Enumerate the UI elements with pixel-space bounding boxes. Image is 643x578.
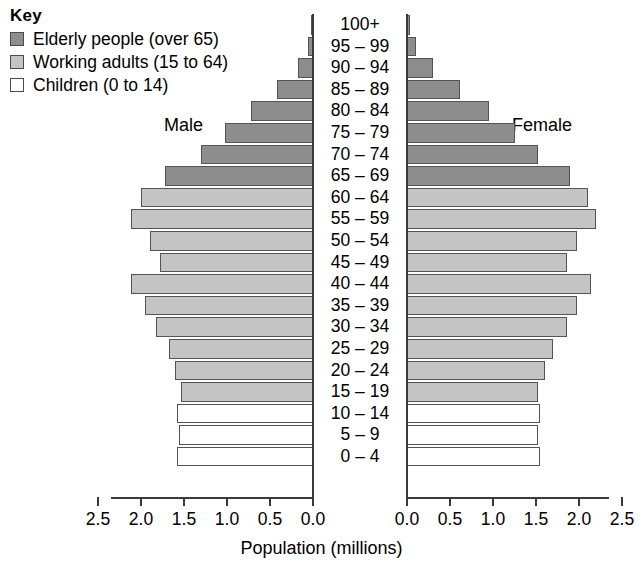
age-group-label: 70 – 74 (313, 144, 407, 166)
bar-male-6 (201, 145, 313, 165)
age-group-label: 60 – 64 (313, 187, 407, 209)
x-tick-label-left-4: 0.5 (248, 508, 292, 530)
bar-female-1 (407, 37, 416, 57)
bar-male-17 (181, 382, 313, 402)
x-tick-label-right-5: 2.5 (600, 508, 643, 530)
age-group-label: 80 – 84 (313, 100, 407, 122)
age-group-label: 15 – 19 (313, 381, 407, 403)
x-tick-label-right-3: 1.5 (514, 508, 558, 530)
x-tick-right-3 (535, 497, 537, 506)
bar-male-5 (225, 123, 313, 143)
bar-male-7 (165, 166, 313, 186)
pyramid-row: 65 – 69 (0, 165, 643, 187)
bar-female-11 (407, 253, 567, 273)
pyramid-row: 20 – 24 (0, 360, 643, 382)
x-tick-label-left-5: 0.0 (291, 508, 335, 530)
x-tick-left-4 (269, 497, 271, 506)
bar-female-19 (407, 425, 538, 445)
pyramid-row: 90 – 94 (0, 57, 643, 79)
bar-male-3 (277, 80, 313, 100)
pyramid-plot-area: 100+95 – 9990 – 9485 – 8980 – 8475 – 797… (0, 14, 643, 499)
age-group-label: 30 – 34 (313, 316, 407, 338)
age-group-label: 40 – 44 (313, 273, 407, 295)
bar-female-18 (407, 404, 540, 424)
pyramid-row: 0 – 4 (0, 446, 643, 468)
bar-female-9 (407, 209, 596, 229)
bar-female-17 (407, 382, 538, 402)
bar-female-2 (407, 58, 433, 78)
age-group-label: 0 – 4 (313, 446, 407, 468)
bar-female-4 (407, 101, 489, 121)
pyramid-row: 75 – 79 (0, 122, 643, 144)
pyramid-row: 35 – 39 (0, 295, 643, 317)
pyramid-row: 15 – 19 (0, 381, 643, 403)
bar-male-18 (177, 404, 313, 424)
bar-male-16 (175, 361, 313, 381)
x-tick-right-5 (621, 497, 623, 506)
male-zero-axis-line (312, 14, 314, 499)
pyramid-row: 70 – 74 (0, 144, 643, 166)
pyramid-row: 10 – 14 (0, 403, 643, 425)
bar-female-13 (407, 296, 577, 316)
bar-male-11 (160, 253, 313, 273)
x-tick-left-2 (183, 497, 185, 506)
bar-male-8 (141, 188, 313, 208)
x-axis: 2.52.01.51.00.50.00.00.51.01.52.02.5 Pop… (0, 497, 643, 578)
bar-female-6 (407, 145, 538, 165)
pyramid-row: 5 – 9 (0, 424, 643, 446)
bar-female-8 (407, 188, 588, 208)
bar-male-13 (145, 296, 313, 316)
female-zero-axis-line (406, 14, 408, 499)
pyramid-row: 25 – 29 (0, 338, 643, 360)
age-group-label: 75 – 79 (313, 122, 407, 144)
bar-male-2 (298, 58, 313, 78)
x-tick-label-right-4: 2.0 (557, 508, 601, 530)
x-tick-label-right-0: 0.0 (385, 508, 429, 530)
bar-female-3 (407, 80, 460, 100)
age-group-label: 100+ (313, 14, 407, 36)
x-tick-right-1 (449, 497, 451, 506)
age-group-label: 90 – 94 (313, 57, 407, 79)
pyramid-row: 40 – 44 (0, 273, 643, 295)
bar-female-10 (407, 231, 577, 251)
age-group-label: 95 – 99 (313, 36, 407, 58)
bar-female-7 (407, 166, 570, 186)
x-tick-left-3 (226, 497, 228, 506)
bar-male-14 (156, 317, 313, 337)
x-tick-label-left-3: 1.0 (205, 508, 249, 530)
age-group-label: 35 – 39 (313, 295, 407, 317)
age-group-label: 55 – 59 (313, 208, 407, 230)
age-group-label: 10 – 14 (313, 403, 407, 425)
pyramid-row: 85 – 89 (0, 79, 643, 101)
pyramid-row: 50 – 54 (0, 230, 643, 252)
x-tick-label-left-0: 2.5 (76, 508, 120, 530)
pyramid-row: 30 – 34 (0, 316, 643, 338)
x-tick-label-left-2: 1.5 (162, 508, 206, 530)
bar-female-15 (407, 339, 553, 359)
x-tick-label-left-1: 2.0 (119, 508, 163, 530)
x-tick-left-1 (140, 497, 142, 506)
bar-male-20 (177, 447, 313, 467)
bar-female-20 (407, 447, 540, 467)
age-group-label: 25 – 29 (313, 338, 407, 360)
pyramid-row: 60 – 64 (0, 187, 643, 209)
age-group-label: 5 – 9 (313, 424, 407, 446)
bar-male-4 (251, 101, 313, 121)
pyramid-row: 100+ (0, 14, 643, 36)
bar-female-5 (407, 123, 515, 143)
bar-male-19 (179, 425, 313, 445)
x-tick-label-right-2: 1.0 (471, 508, 515, 530)
x-tick-label-right-1: 0.5 (428, 508, 472, 530)
pyramid-row: 80 – 84 (0, 100, 643, 122)
bar-male-12 (131, 274, 313, 294)
bar-male-15 (169, 339, 313, 359)
x-tick-right-4 (578, 497, 580, 506)
x-axis-title: Population (millions) (0, 538, 643, 559)
bar-male-9 (131, 209, 313, 229)
age-group-label: 50 – 54 (313, 230, 407, 252)
pyramid-rows: 100+95 – 9990 – 9485 – 8980 – 8475 – 797… (0, 14, 643, 467)
pyramid-row: 95 – 99 (0, 36, 643, 58)
x-tick-left-0 (97, 497, 99, 506)
bar-female-16 (407, 361, 545, 381)
age-group-label: 85 – 89 (313, 79, 407, 101)
